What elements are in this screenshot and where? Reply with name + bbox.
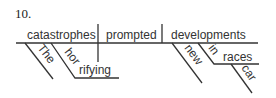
subject-word: catastrophes — [27, 28, 96, 42]
preposition-in: in — [206, 41, 223, 57]
prepositional-object-races: races — [223, 50, 252, 64]
modifier-the: The — [35, 41, 59, 66]
item-number: 10. — [15, 6, 31, 21]
modifier-horrifying-part2: rifying — [79, 63, 111, 77]
verb-word: prompted — [106, 28, 157, 42]
modifier-car: car — [239, 62, 260, 84]
modifier-new: new — [182, 41, 207, 67]
direct-object-word: developments — [171, 28, 246, 42]
sentence-diagram: 10. catastrophes prompted developments T… — [0, 0, 276, 98]
